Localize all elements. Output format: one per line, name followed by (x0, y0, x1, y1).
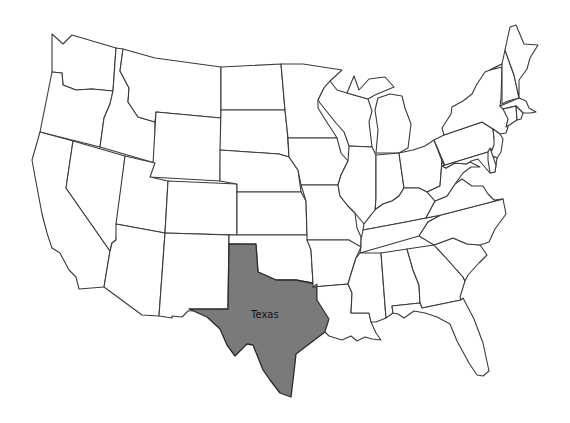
state-montana[interactable] (120, 49, 221, 122)
state-new-mexico[interactable] (159, 233, 229, 318)
state-north-dakota[interactable] (221, 64, 285, 110)
state-new-york[interactable] (442, 64, 510, 135)
texas-label: Texas (250, 309, 279, 320)
state-wyoming[interactable] (150, 112, 221, 181)
state-kansas[interactable] (237, 192, 307, 235)
state-florida[interactable] (392, 298, 489, 376)
us-map: Texas (0, 0, 570, 423)
state-south-dakota[interactable] (220, 110, 289, 157)
state-colorado[interactable] (165, 181, 237, 235)
